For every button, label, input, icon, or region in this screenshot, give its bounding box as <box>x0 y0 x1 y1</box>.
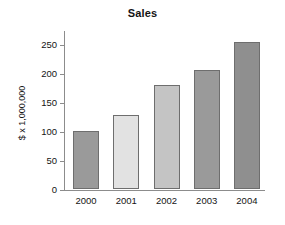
y-axis-tick-label: 100 <box>41 127 57 137</box>
plot-area: 050100150200250 20002001200220032004 <box>64 31 265 190</box>
bar-2001 <box>113 115 139 189</box>
y-axis-tick-mark <box>60 161 64 162</box>
bar-2002 <box>154 85 180 189</box>
x-axis-line <box>64 190 265 191</box>
x-axis-tick-label-2000: 2000 <box>76 195 97 206</box>
y-axis-title: $ x 1,000,000 <box>17 86 27 141</box>
sales-bar-chart: Sales $ x 1,000,000 050100150200250 2000… <box>0 0 285 225</box>
bar-2004 <box>234 42 260 189</box>
y-axis-tick-label: 0 <box>52 185 57 195</box>
y-axis-tick-label: 250 <box>41 40 57 50</box>
y-axis-tick-mark <box>60 45 64 46</box>
y-axis-tick-label: 150 <box>41 98 57 108</box>
y-axis-tick-mark <box>60 132 64 133</box>
x-axis-tick-label-2004: 2004 <box>236 195 257 206</box>
y-axis-line <box>64 31 65 190</box>
y-axis-tick-mark <box>60 190 64 191</box>
y-axis-tick-label: 50 <box>46 156 57 166</box>
x-axis-tick-label-2003: 2003 <box>196 195 217 206</box>
x-axis-tick-label-2001: 2001 <box>116 195 137 206</box>
bar-2000 <box>73 131 99 189</box>
y-axis-title-container: $ x 1,000,000 <box>14 38 30 188</box>
y-axis-tick-label: 200 <box>41 69 57 79</box>
x-axis-tick-label-2002: 2002 <box>156 195 177 206</box>
bar-2003 <box>194 70 220 189</box>
y-axis-tick-mark <box>60 103 64 104</box>
chart-title: Sales <box>0 7 285 20</box>
y-axis-tick-mark <box>60 74 64 75</box>
